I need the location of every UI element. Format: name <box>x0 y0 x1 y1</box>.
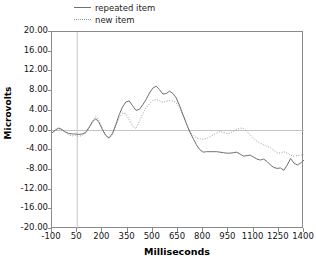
plot-area <box>51 31 303 228</box>
legend-line-solid-icon <box>74 3 91 12</box>
y-axis-tick-label: -8.00 <box>4 164 48 173</box>
y-axis-tick-mark <box>48 90 52 91</box>
y-axis-tick-mark <box>48 110 52 111</box>
erp-waveform-chart: repeated item new item 20.0016.0012.008.… <box>0 0 316 268</box>
legend-label-new-item: new item <box>95 15 134 25</box>
chart-legend: repeated item new item <box>74 2 204 26</box>
x-axis-tick-mark <box>152 228 153 232</box>
x-axis-tick-label: 1400 <box>286 231 316 241</box>
x-axis-title: Milliseconds <box>51 246 303 257</box>
y-axis-tick-mark <box>48 70 52 71</box>
y-axis-tick-mark <box>48 51 52 52</box>
y-axis-tick-mark <box>48 169 52 170</box>
legend-label-repeated-item: repeated item <box>95 3 155 13</box>
y-axis-tick-mark <box>48 130 52 131</box>
y-axis-tick-label: -16.00 <box>4 203 48 212</box>
x-axis-tick-mark <box>303 228 304 232</box>
y-axis-tick-label: -12.00 <box>4 184 48 193</box>
x-axis-tick-mark <box>253 228 254 232</box>
x-axis-tick-mark <box>202 228 203 232</box>
y-axis-tick-mark <box>48 31 52 32</box>
x-axis-tick-mark <box>127 228 128 232</box>
x-axis-tick-mark <box>177 228 178 232</box>
series-line-repeated-item <box>52 86 304 170</box>
legend-item-repeated-item: repeated item <box>74 2 204 13</box>
x-axis-tick-mark <box>101 228 102 232</box>
y-axis-tick-mark <box>48 189 52 190</box>
y-axis-tick-mark <box>48 149 52 150</box>
x-axis-tick-mark <box>227 228 228 232</box>
y-axis-title: Microvolts <box>3 81 13 145</box>
x-axis-tick-mark <box>51 228 52 232</box>
y-axis-tick-label: 20.00 <box>4 26 48 35</box>
y-axis-tick-label: -4.00 <box>4 144 48 153</box>
y-axis-tick-label: 16.00 <box>4 46 48 55</box>
legend-line-dotted-icon <box>74 15 91 24</box>
legend-item-new-item: new item <box>74 14 204 25</box>
y-axis-tick-label: 12.00 <box>4 65 48 74</box>
x-axis-tick-mark <box>76 228 77 232</box>
plot-svg <box>52 32 304 229</box>
series-line-new-item <box>52 99 304 156</box>
y-axis-tick-mark <box>48 208 52 209</box>
x-axis-tick-mark <box>278 228 279 232</box>
